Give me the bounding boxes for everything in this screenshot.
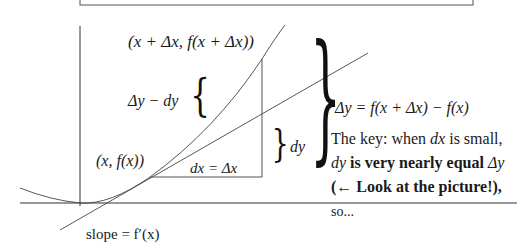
line2-var: dy xyxy=(331,154,346,171)
delta-y-definition: Δy = f(x + Δx) − f(x) xyxy=(335,99,469,117)
explanation-line-4: so... xyxy=(331,204,354,220)
upper-point-label: (x + Δx, f(x + Δx)) xyxy=(128,32,254,52)
line2-bold: is very nearly equal xyxy=(346,154,488,171)
explanation-line-2: dy is very nearly equal Δy xyxy=(331,154,504,172)
point-label: (x, f(x)) xyxy=(96,152,144,170)
line1-suffix: is small, xyxy=(445,130,502,147)
differential-diagram xyxy=(0,0,517,246)
line1-prefix: The key: when xyxy=(331,130,430,147)
explanation-line-3: (← Look at the picture!), xyxy=(331,178,502,196)
explanation-line-1: The key: when dx is small, xyxy=(331,130,503,148)
line1-var: dx xyxy=(430,130,445,147)
gap-brace-icon: { xyxy=(190,74,210,118)
dx-label: dx = Δx xyxy=(190,160,237,177)
dy-brace-icon: } xyxy=(272,124,289,162)
line2-var2: Δy xyxy=(488,154,505,171)
slope-label: slope = f′(x) xyxy=(86,226,159,243)
dy-label: dy xyxy=(290,138,305,156)
gap-label: Δy − dy xyxy=(128,92,178,110)
top-caption-box xyxy=(80,0,473,5)
